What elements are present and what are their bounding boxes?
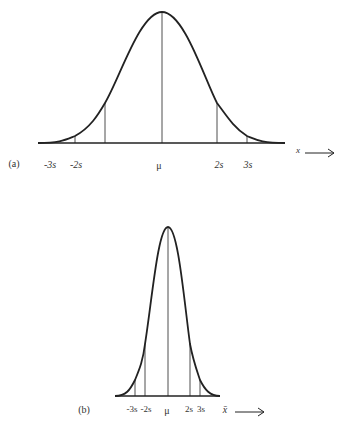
axis-b-label: x̄ — [223, 404, 227, 415]
tick-b-3s: 3s — [197, 404, 205, 414]
panel-a-curve — [38, 12, 334, 157]
diagram-canvas — [0, 0, 343, 430]
tick-a-minus2s: -2s — [70, 159, 82, 170]
tick-a-3s: 3s — [244, 159, 253, 170]
panel-b-curve — [115, 227, 264, 416]
tick-b-mu: μ — [164, 405, 169, 416]
tick-b-2s: 2s — [185, 404, 193, 414]
tick-a-2s: 2s — [215, 159, 224, 170]
tick-b-minus2s: -2s — [141, 404, 152, 414]
tick-a-minus3s: -3s — [44, 159, 56, 170]
axis-a-label: x — [296, 145, 300, 155]
panel-b-label: (b) — [78, 404, 90, 415]
tick-a-mu: μ — [156, 160, 161, 171]
tick-b-minus3s: -3s — [127, 404, 138, 414]
panel-a-label: (a) — [8, 158, 19, 169]
